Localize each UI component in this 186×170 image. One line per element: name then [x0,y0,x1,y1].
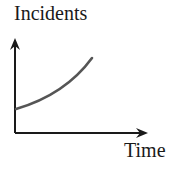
incidents-curve [16,58,92,109]
x-axis-label: Time [124,140,166,160]
